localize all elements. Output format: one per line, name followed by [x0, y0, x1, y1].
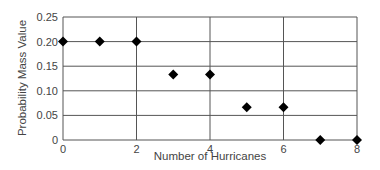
y-tick-label: 0	[52, 134, 58, 146]
data-point-diamond	[95, 37, 105, 47]
y-tick-label: 0.10	[37, 85, 58, 97]
data-point-diamond	[315, 135, 325, 145]
x-axis-label: Number of Hurricanes	[154, 150, 267, 162]
y-tick-label: 0.25	[37, 11, 58, 23]
x-tick-label: 0	[60, 143, 66, 155]
y-axis-ticks: 00.050.100.150.200.25	[37, 11, 58, 146]
y-tick-label: 0.15	[37, 60, 58, 72]
y-tick-label: 0.05	[37, 109, 58, 121]
scatter-chart: 00.050.100.150.200.25 02468 Number of Hu…	[0, 0, 380, 170]
x-tick-label: 6	[280, 143, 286, 155]
data-point-diamond	[168, 69, 178, 79]
data-point-diamond	[205, 69, 215, 79]
x-tick-label: 2	[133, 143, 139, 155]
data-point-diamond	[58, 37, 68, 47]
data-point-diamond	[279, 102, 289, 112]
y-axis-label: Probability Mass Value	[16, 20, 28, 136]
data-point-diamond	[242, 102, 252, 112]
data-point-diamond	[132, 37, 142, 47]
y-tick-label: 0.20	[37, 36, 58, 48]
